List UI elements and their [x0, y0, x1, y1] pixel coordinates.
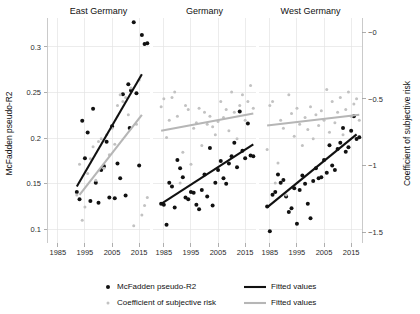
data-point [339, 96, 342, 99]
data-point [102, 167, 105, 170]
data-point [227, 129, 230, 132]
data-point [168, 119, 171, 122]
panel-west-germany: West Germany1985199520052015 [259, 6, 362, 257]
data-point [230, 91, 233, 94]
data-point [246, 100, 249, 103]
data-point [116, 104, 119, 107]
data-point [75, 190, 79, 194]
data-point [236, 137, 239, 140]
x-tick-label: 2005 [316, 248, 333, 257]
data-point [357, 135, 361, 139]
data-point [97, 201, 101, 205]
data-point [274, 181, 277, 184]
series-coef-subjective-risk [160, 84, 255, 184]
legend-marker-dot-dark [106, 285, 110, 289]
legend-layer: McFadden pseudo-R2Coefficient of subject… [106, 282, 316, 307]
data-point [279, 119, 282, 122]
y-tick-label-left: 0.25 [26, 88, 41, 97]
data-point [346, 145, 350, 149]
data-point [78, 163, 81, 166]
data-point [194, 203, 198, 207]
data-point [276, 173, 280, 177]
data-point [309, 216, 313, 220]
data-point [140, 213, 143, 216]
data-point [317, 124, 320, 127]
data-point [200, 188, 204, 192]
data-point [173, 205, 177, 209]
data-point [91, 107, 95, 111]
data-point [287, 93, 290, 96]
data-point [244, 119, 247, 122]
data-point [224, 182, 228, 186]
data-point [342, 133, 345, 136]
data-point [80, 119, 84, 123]
data-point [170, 184, 174, 188]
data-point [113, 196, 117, 200]
legend-item[interactable]: McFadden pseudo-R2 [106, 282, 197, 291]
data-point [290, 206, 294, 210]
data-point [126, 82, 130, 86]
data-point [347, 91, 350, 94]
data-point [290, 112, 293, 115]
data-point [268, 229, 272, 233]
data-point [293, 135, 296, 138]
x-tick-label: 2005 [210, 248, 227, 257]
data-point [140, 33, 144, 37]
data-point [121, 100, 124, 103]
data-point [221, 176, 225, 180]
panel-germany: Germany1985199520052015 [153, 6, 256, 257]
data-point [165, 136, 168, 139]
data-point [333, 168, 337, 172]
panel-title: Germany [186, 6, 224, 16]
data-point [219, 159, 223, 163]
data-point [97, 140, 100, 143]
data-point [187, 108, 190, 111]
panel-east-germany: East Germany1985199520052015 [47, 6, 150, 257]
data-point [198, 107, 201, 110]
x-tick-label: 2015 [237, 248, 254, 257]
legend-label: Fitted values [271, 282, 316, 291]
data-point [181, 175, 185, 179]
data-point [328, 131, 331, 134]
data-point [181, 151, 184, 154]
chart-figure: East Germany1985199520052015Germany19851… [0, 0, 420, 314]
y-tick-label-right: −0 [368, 28, 377, 37]
data-point [205, 194, 209, 198]
data-point [100, 137, 103, 140]
data-point [197, 207, 201, 211]
fitted-line-dark [77, 74, 142, 186]
legend-item[interactable]: Coefficient of subjective risk [107, 298, 218, 307]
data-point [249, 84, 252, 87]
data-point [268, 104, 271, 107]
data-point [105, 140, 109, 144]
legend-item[interactable]: Fitted values [244, 298, 316, 307]
data-point [134, 91, 138, 95]
data-point [336, 111, 339, 114]
data-point [83, 156, 87, 160]
data-point [107, 195, 111, 199]
x-tick-label: 1995 [183, 248, 200, 257]
data-point [320, 109, 323, 112]
data-point [314, 113, 317, 116]
data-point [184, 104, 187, 107]
data-point [303, 182, 307, 186]
data-point [75, 193, 78, 196]
data-point [252, 107, 255, 110]
data-point [298, 188, 302, 192]
data-point [124, 194, 128, 198]
data-point [319, 175, 323, 179]
legend-label: McFadden pseudo-R2 [117, 282, 197, 291]
legend-item[interactable]: Fitted values [244, 282, 316, 291]
panel-title: West Germany [281, 6, 341, 16]
legend-marker-dot-light [107, 302, 110, 305]
data-point [331, 100, 334, 103]
y-tick-label-right: −0.5 [368, 95, 383, 104]
data-point [178, 166, 182, 170]
data-point [203, 111, 206, 114]
data-point [145, 41, 149, 45]
data-point [211, 204, 215, 208]
x-tick-label: 1995 [289, 248, 306, 257]
data-point [341, 126, 345, 130]
data-point [167, 181, 171, 185]
data-point [344, 108, 347, 111]
